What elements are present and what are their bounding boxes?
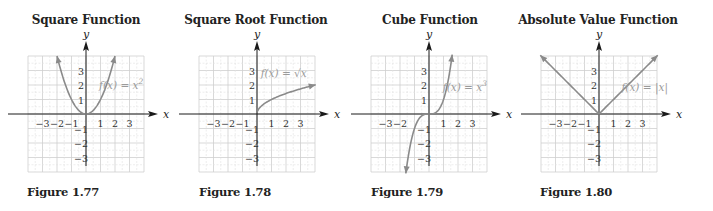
- x-tick-label: 2: [455, 118, 461, 129]
- x-tick-label: 3: [640, 118, 646, 129]
- function-label: f(x) = √x: [260, 67, 307, 79]
- y-tick-label: −1: [417, 124, 431, 135]
- figure-caption: Figure 1.80: [540, 185, 612, 199]
- x-tick-label: −3: [207, 118, 221, 129]
- panel-cube-function: Cube Function xy−3−2123321−1−2−3f(x) = x…: [343, 0, 521, 211]
- x-axis-label: x: [163, 108, 170, 121]
- x-tick-label: 3: [298, 118, 304, 129]
- figure-caption: Figure 1.78: [199, 185, 271, 199]
- y-tick-label: 1: [591, 95, 597, 106]
- x-tick-label: 1: [269, 118, 275, 129]
- y-tick-label: −3: [587, 153, 601, 164]
- x-tick-label: 1: [611, 118, 617, 129]
- figure-caption: Figure 1.79: [371, 185, 443, 199]
- y-tick-label: −1: [587, 124, 601, 135]
- x-tick-label: −2: [50, 118, 64, 129]
- y-tick-label: −2: [245, 138, 259, 149]
- y-tick-label: 2: [421, 80, 427, 91]
- panel-square-function: Square Function xy−3−2−1123321−1−2−3f(x)…: [0, 0, 178, 211]
- function-label: f(x) = |x|: [620, 81, 667, 95]
- y-tick-label: −2: [417, 138, 431, 149]
- y-tick-label: −3: [417, 153, 431, 164]
- x-tick-label: −2: [221, 118, 235, 129]
- x-tick-label: 3: [470, 118, 476, 129]
- y-tick-label: 3: [421, 66, 427, 77]
- x-tick-label: −3: [36, 118, 50, 129]
- absolute-value-function-graph: xy−3−2−1123321−1−2−3f(x) = |x|: [513, 0, 691, 211]
- y-tick-label: 1: [421, 95, 427, 106]
- y-axis-label: y: [253, 28, 261, 41]
- y-tick-label: 2: [249, 80, 255, 91]
- x-tick-label: 2: [283, 118, 289, 129]
- x-axis-label: x: [506, 108, 513, 121]
- x-tick-label: 2: [625, 118, 631, 129]
- y-tick-label: 1: [78, 95, 84, 106]
- figure-caption: Figure 1.77: [27, 185, 99, 199]
- y-tick-label: 2: [591, 80, 597, 91]
- y-tick-label: −3: [74, 153, 88, 164]
- y-tick-label: 1: [249, 95, 255, 106]
- function-label: f(x) = x3: [442, 79, 487, 93]
- cube-function-graph: xy−3−2123321−1−2−3f(x) = x3: [343, 0, 521, 211]
- y-tick-label: 3: [249, 66, 255, 77]
- x-tick-label: −2: [563, 118, 577, 129]
- y-tick-label: −3: [245, 153, 259, 164]
- panel-absolute-value-function: Absolute Value Function xy−3−2−1123321−1…: [513, 0, 691, 211]
- function-label: f(x) = x2: [98, 77, 143, 91]
- x-tick-label: −3: [549, 118, 563, 129]
- x-tick-label: −3: [379, 118, 393, 129]
- y-tick-label: 3: [78, 66, 84, 77]
- y-tick-label: −1: [245, 124, 259, 135]
- x-axis-label: x: [334, 108, 341, 121]
- x-tick-label: 1: [441, 118, 447, 129]
- x-tick-label: 3: [127, 118, 133, 129]
- y-tick-label: 3: [591, 66, 597, 77]
- panel-square-root-function: Square Root Function xy−3−2−1123321−1−2−…: [171, 0, 349, 211]
- x-axis-label: x: [676, 108, 683, 121]
- y-tick-label: −2: [74, 138, 88, 149]
- y-tick-label: 2: [78, 80, 84, 91]
- x-tick-label: 2: [112, 118, 118, 129]
- y-axis-label: y: [425, 28, 433, 41]
- square-function-graph: xy−3−2−1123321−1−2−3f(x) = x2: [0, 0, 178, 211]
- y-tick-label: −1: [74, 124, 88, 135]
- square-root-function-graph: xy−3−2−1123321−1−2−3f(x) = √x: [171, 0, 349, 211]
- x-tick-label: 1: [98, 118, 104, 129]
- x-tick-label: −2: [393, 118, 407, 129]
- y-axis-label: y: [82, 28, 90, 41]
- y-tick-label: −2: [587, 138, 601, 149]
- y-axis-label: y: [595, 28, 603, 41]
